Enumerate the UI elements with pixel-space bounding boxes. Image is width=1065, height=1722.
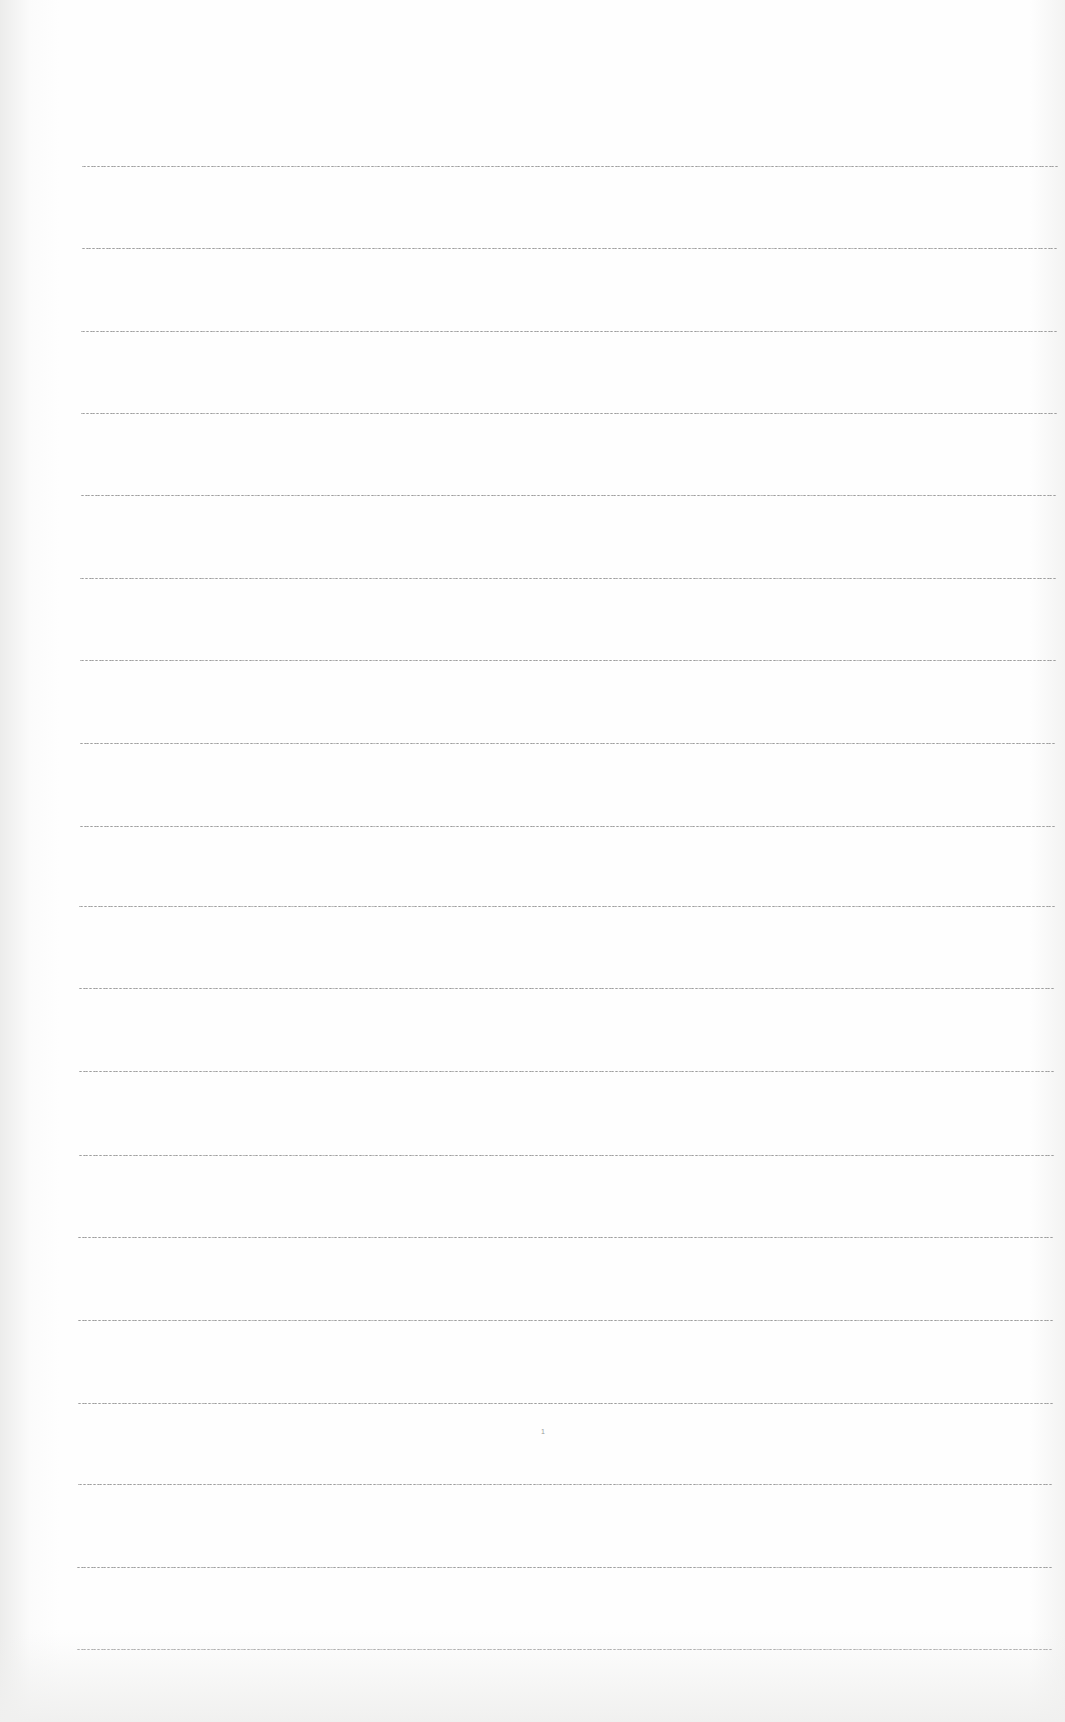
ruled-line — [79, 906, 1055, 907]
lined-paper-page: 1 — [0, 0, 1065, 1722]
ruled-line — [79, 1155, 1054, 1156]
ruled-line — [79, 1071, 1054, 1072]
ruled-line — [78, 1320, 1053, 1321]
ruled-line — [81, 413, 1057, 414]
scan-shadow — [0, 1632, 1065, 1722]
ruled-line — [80, 743, 1055, 744]
ruled-line — [77, 1567, 1052, 1568]
ruled-line — [78, 1237, 1053, 1238]
ruled-line — [79, 988, 1054, 989]
ruled-line — [78, 1484, 1052, 1485]
ruled-line — [82, 166, 1058, 167]
ruled-line — [81, 331, 1057, 332]
ruled-line — [78, 1403, 1053, 1404]
page-number: 1 — [541, 1428, 545, 1435]
ruled-line — [80, 578, 1056, 579]
ruled-line — [81, 495, 1056, 496]
ruled-line — [80, 826, 1055, 827]
ruled-line — [80, 660, 1056, 661]
ruled-line — [82, 248, 1057, 249]
